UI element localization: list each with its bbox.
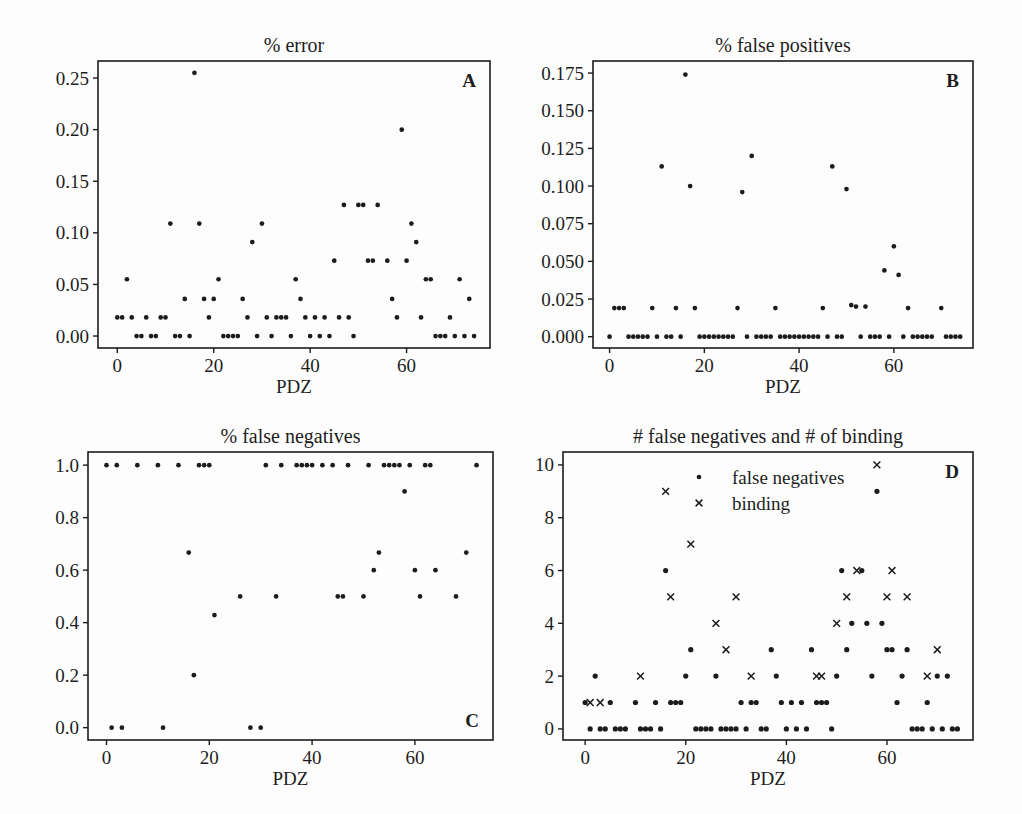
data-point — [212, 613, 217, 618]
data-point — [713, 674, 718, 679]
data-point — [958, 334, 963, 339]
data-point — [669, 334, 674, 339]
data-point — [764, 726, 769, 731]
data-point — [154, 334, 159, 339]
data-point — [849, 621, 854, 626]
data-point — [255, 334, 260, 339]
data-point — [906, 306, 911, 311]
data-point — [598, 726, 603, 731]
data-point — [245, 315, 250, 320]
y-tick-label: 0.175 — [541, 63, 584, 84]
data-point — [156, 463, 161, 468]
data-point — [231, 334, 236, 339]
data-point — [176, 463, 181, 468]
y-tick-label: 10 — [535, 454, 554, 475]
data-point — [799, 700, 804, 705]
data-point — [698, 726, 703, 731]
x-tick-label: 40 — [790, 355, 809, 376]
y-tick-label: 0.100 — [541, 176, 584, 197]
data-point — [643, 726, 648, 731]
data-point — [658, 726, 663, 731]
data-point — [711, 334, 716, 339]
data-point — [920, 334, 925, 339]
data-point — [858, 334, 863, 339]
data-point — [749, 154, 754, 159]
data-point — [607, 334, 612, 339]
data-point — [829, 726, 834, 731]
y-tick-label: 0.00 — [56, 326, 89, 347]
data-point — [617, 306, 622, 311]
data-point — [178, 334, 183, 339]
data-point — [433, 568, 438, 573]
data-point — [794, 726, 799, 731]
y-tick-label: 0.25 — [56, 68, 89, 89]
data-point — [787, 334, 792, 339]
y-tick-label: 8 — [545, 507, 555, 528]
data-point — [655, 334, 660, 339]
data-point — [404, 258, 409, 263]
data-point — [327, 334, 332, 339]
data-point — [716, 334, 721, 339]
data-point — [269, 334, 274, 339]
x-tick-label: 40 — [301, 355, 320, 376]
data-point — [636, 334, 641, 339]
data-point — [653, 700, 658, 705]
data-point — [925, 700, 930, 705]
data-point — [779, 700, 784, 705]
y-tick-label: 0.05 — [56, 274, 89, 295]
corner-label: A — [462, 70, 476, 91]
data-point — [904, 647, 909, 652]
data-point — [621, 306, 626, 311]
data-point — [158, 315, 163, 320]
data-point — [366, 463, 371, 468]
data-point — [849, 303, 854, 308]
data-point — [192, 71, 197, 76]
y-tick-label: 0.150 — [541, 100, 584, 121]
data-point — [879, 621, 884, 626]
y-tick-label: 0.025 — [541, 289, 584, 310]
data-point — [930, 726, 935, 731]
x-tick-label: 20 — [200, 747, 219, 768]
data-point — [216, 277, 221, 282]
data-point — [356, 203, 361, 208]
data-point — [335, 594, 340, 599]
data-point — [390, 297, 395, 302]
data-point — [226, 334, 231, 339]
x-tick-label: 0 — [102, 747, 112, 768]
data-point — [583, 700, 588, 705]
data-point — [733, 726, 738, 731]
data-point — [887, 334, 892, 339]
data-point — [884, 647, 889, 652]
data-point — [697, 334, 702, 339]
data-point — [294, 463, 299, 468]
legend-label: binding — [732, 493, 791, 514]
data-point — [744, 726, 749, 731]
data-point — [603, 726, 608, 731]
data-point — [375, 203, 380, 208]
data-point — [953, 334, 958, 339]
data-point — [874, 489, 879, 494]
data-point — [668, 700, 673, 705]
data-point — [192, 673, 197, 678]
figure: 02040600.000.050.100.150.200.25% errorPD… — [0, 0, 1022, 814]
data-point — [844, 647, 849, 652]
data-point — [738, 700, 743, 705]
data-point — [284, 315, 289, 320]
data-point — [187, 334, 192, 339]
data-point — [395, 315, 400, 320]
data-point — [211, 297, 216, 302]
data-point — [935, 674, 940, 679]
y-tick-label: 2 — [545, 666, 555, 687]
data-point — [650, 306, 655, 311]
panel-title: # false negatives and # of binding — [633, 425, 903, 448]
data-point — [274, 594, 279, 599]
data-point — [351, 334, 356, 339]
data-point — [310, 463, 315, 468]
data-point — [186, 550, 191, 555]
data-point — [693, 306, 698, 311]
data-point — [125, 277, 130, 282]
data-point — [806, 334, 811, 339]
data-point — [816, 334, 821, 339]
data-point — [308, 334, 313, 339]
data-point — [789, 700, 794, 705]
